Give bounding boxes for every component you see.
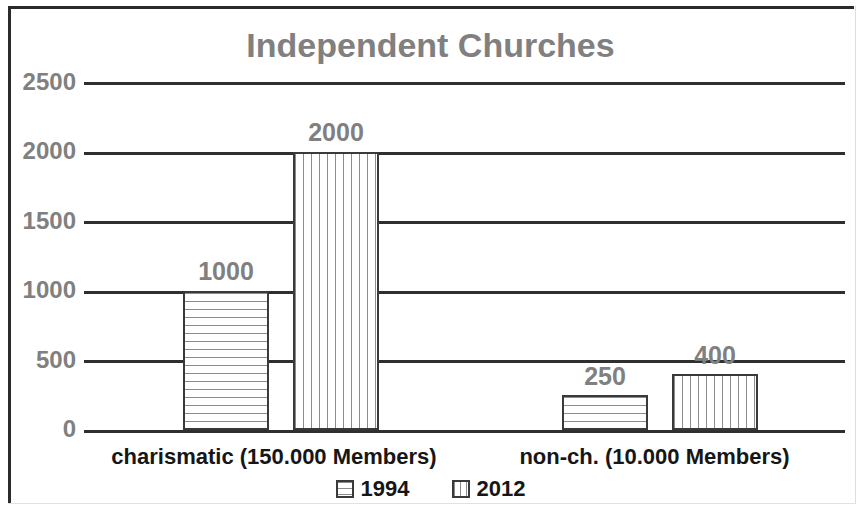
bar-1994-non-ch[interactable]: [562, 395, 648, 430]
chart-legend: 1994 2012: [0, 478, 861, 500]
legend-entry-1994[interactable]: 1994: [336, 478, 410, 500]
legend-entry-2012[interactable]: 2012: [452, 478, 526, 500]
gridline-2500: [84, 82, 845, 85]
y-axis-tick-2500: 2500: [8, 70, 76, 94]
y-axis-tick-0: 0: [8, 417, 76, 441]
bar-label-1994-non-ch: 250: [562, 364, 648, 389]
gridline-1500: [84, 221, 845, 224]
bar-1994-charismatic[interactable]: [183, 291, 269, 430]
chart-title: Independent Churches: [0, 26, 861, 65]
chart-frame-right-border: [855, 6, 856, 504]
chart-frame-bottom-border: [8, 503, 856, 504]
bar-label-1994-charismatic: 1000: [183, 259, 269, 284]
bar-label-2012-non-ch: 400: [672, 343, 758, 368]
bar-2012-charismatic[interactable]: [293, 152, 379, 430]
bar-label-2012-charismatic: 2000: [293, 120, 379, 145]
gridline-0-baseline: [84, 430, 845, 433]
bar-2012-non-ch[interactable]: [672, 374, 758, 430]
y-axis-tick-labels: 2500 2000 1500 1000 500 0: [0, 82, 76, 430]
legend-label-1994: 1994: [361, 478, 410, 500]
plot-area: 1000 2000 250 400: [84, 82, 845, 430]
chart-frame-top-border: [8, 6, 854, 9]
gridline-2000: [84, 152, 845, 155]
legend-label-2012: 2012: [477, 478, 526, 500]
y-axis-tick-2000: 2000: [8, 139, 76, 163]
y-axis-tick-1500: 1500: [8, 209, 76, 233]
chart-container: Independent Churches 2500 2000 1500 1000…: [0, 0, 861, 510]
y-axis-tick-1000: 1000: [8, 278, 76, 302]
y-axis-tick-500: 500: [8, 348, 76, 372]
legend-swatch-vertical-hatch-icon: [452, 480, 470, 498]
x-axis-category-label-non-ch: non-ch. (10.000 Members): [464, 446, 845, 468]
legend-swatch-horizontal-hatch-icon: [336, 480, 354, 498]
x-axis-category-label-charismatic: charismatic (150.000 Members): [84, 446, 464, 468]
